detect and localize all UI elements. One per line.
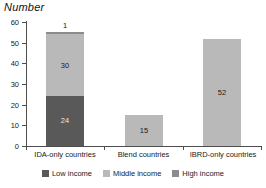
bar-blend[interactable]: 15 [125,115,163,146]
legend-label-high-income: High income [182,170,224,178]
x-axis-label-ibrd-only: IBRD-only countries [183,151,263,159]
chart-legend: Low income Middle income High income [0,170,266,178]
stacked-bar-chart: Number 0 10 20 30 40 50 60 24 30 [0,0,266,188]
x-tick-0 [26,146,27,150]
bar-value-ida-middle: 30 [61,62,69,70]
bar-value-ida-low: 24 [61,117,69,125]
bar-segment-middle-income[interactable]: 30 [46,34,84,96]
plot-area: 24 30 1 15 52 [26,22,262,146]
chart-title: Number [4,1,44,13]
bar-segment-high-income[interactable]: 1 [46,32,84,34]
bar-value-ida-high: 1 [46,22,84,30]
bar-segment-middle-income[interactable]: 15 [125,115,163,146]
bar-segment-middle-income[interactable]: 52 [203,39,241,147]
bar-value-blend-middle: 15 [140,127,148,135]
y-tick-label-40: 40 [11,60,19,68]
bar-segment-low-income[interactable]: 24 [46,96,84,146]
x-tick-3 [261,146,262,150]
legend-label-middle-income: Middle income [113,170,161,178]
legend-label-low-income: Low income [52,170,92,178]
y-tick-label-30: 30 [11,81,19,89]
y-tick-label-20: 20 [11,102,19,110]
bar-ibrd-only[interactable]: 52 [203,39,241,147]
y-tick-label-0: 0 [15,143,19,151]
x-axis-label-blend: Blend countries [104,151,183,159]
y-tick-label-10: 10 [11,122,19,130]
legend-item-high-income[interactable]: High income [172,170,224,178]
legend-swatch-icon [172,170,179,177]
bar-value-ibrd-middle: 52 [218,89,226,97]
x-tick-1 [104,146,105,150]
bar-ida-only[interactable]: 24 30 1 [46,32,84,146]
legend-swatch-icon [42,170,49,177]
legend-swatch-icon [103,170,110,177]
x-tick-2 [183,146,184,150]
legend-item-low-income[interactable]: Low income [42,170,92,178]
legend-item-middle-income[interactable]: Middle income [103,170,161,178]
x-axis-label-ida-only: IDA-only countries [26,151,104,159]
y-tick-label-50: 50 [11,40,19,48]
x-axis-line [26,146,262,147]
y-tick-label-60: 60 [11,19,19,27]
